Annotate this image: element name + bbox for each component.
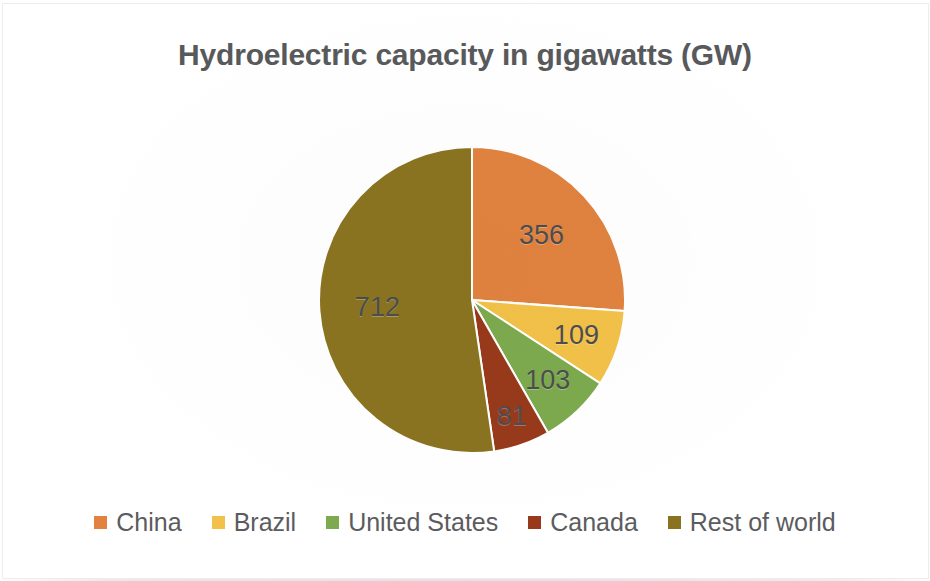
legend-item-label: Rest of world: [690, 508, 836, 537]
legend-item-label: Brazil: [234, 508, 297, 537]
legend-swatch-icon: [94, 516, 107, 529]
legend-item-label: China: [116, 508, 181, 537]
legend-swatch-icon: [528, 516, 541, 529]
legend-item[interactable]: China: [94, 508, 181, 537]
pie-chart-figure: Hydroelectric capacity in gigawatts (GW)…: [0, 0, 930, 581]
legend-item[interactable]: United States: [326, 508, 498, 537]
pie-plot-area: 35610910381712: [318, 146, 626, 454]
legend-item-label: United States: [348, 508, 498, 537]
legend-item[interactable]: Canada: [528, 508, 638, 537]
legend-item-label: Canada: [550, 508, 638, 537]
legend-swatch-icon: [326, 516, 339, 529]
pie-slice: [319, 147, 494, 453]
chart-legend: ChinaBrazilUnited StatesCanadaRest of wo…: [0, 508, 930, 537]
pie-slice-group: [319, 147, 625, 453]
legend-swatch-icon: [668, 516, 681, 529]
pie-svg: [318, 146, 626, 454]
legend-item[interactable]: Rest of world: [668, 508, 836, 537]
legend-swatch-icon: [212, 516, 225, 529]
chart-title: Hydroelectric capacity in gigawatts (GW): [0, 38, 930, 72]
pie-slice: [472, 147, 625, 311]
legend-item[interactable]: Brazil: [212, 508, 297, 537]
